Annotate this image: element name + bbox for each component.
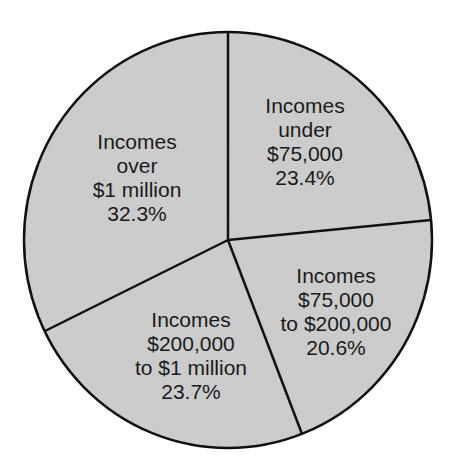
label-line: 23.4% (265, 166, 344, 190)
label-line: $200,000 (135, 332, 247, 356)
label-line: to $200,000 (281, 312, 392, 336)
label-line: over (93, 154, 182, 178)
label-line: under (265, 118, 344, 142)
label-line: $75,000 (281, 288, 392, 312)
label-line: $75,000 (265, 142, 344, 166)
label-line: 32.3% (93, 202, 182, 226)
label-line: Incomes (93, 130, 182, 154)
label-line: Incomes (265, 94, 344, 118)
label-line: 20.6% (281, 336, 392, 360)
label-line: $1 million (93, 178, 182, 202)
label-line: 23.7% (135, 380, 247, 404)
label-line: Incomes (135, 308, 247, 332)
slice-label-under-75k: Incomes under $75,000 23.4% (265, 94, 344, 190)
slice-label-200k-1m: Incomes $200,000 to $1 million 23.7% (135, 308, 247, 404)
label-line: to $1 million (135, 356, 247, 380)
slice-label-75k-200k: Incomes $75,000 to $200,000 20.6% (281, 264, 392, 360)
slice-label-over-1m: Incomes over $1 million 32.3% (93, 130, 182, 226)
label-line: Incomes (281, 264, 392, 288)
